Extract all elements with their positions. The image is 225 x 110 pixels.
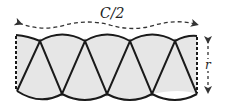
width-arrow	[19, 22, 195, 29]
circle-area-diagram: C/2 r	[0, 0, 225, 110]
width-label: C/2	[100, 5, 124, 21]
sectors-fill	[16, 35, 197, 101]
